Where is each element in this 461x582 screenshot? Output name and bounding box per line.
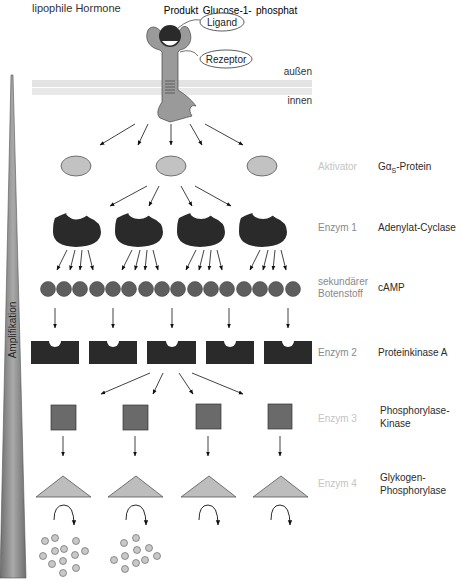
row-name-g-protein: GαS-Protein <box>378 161 431 174</box>
row-name-adenylat-cyclase: Adenylat-Cyclase <box>378 222 456 233</box>
row-name-phosphorylase-kinase-1: Phosphorylase- <box>380 405 449 416</box>
kinase-row <box>51 404 292 430</box>
amplification-label: Amplifikation <box>7 302 18 359</box>
row-name-camp: cAMP <box>378 282 405 293</box>
enzyme1-row: Enzym 1 Adenylat-Cyclase <box>53 205 456 247</box>
row-role-second-messenger-2: Botenstoff <box>318 288 363 299</box>
curved-arrows <box>54 505 290 525</box>
product-row <box>40 535 161 577</box>
row-role-enzyme2: Enzym 2 <box>318 347 357 358</box>
row-role-activator: Aktivator <box>318 161 358 172</box>
pka-row: Enzym 2 Proteinkinase A <box>31 335 448 364</box>
row-name-proteinkinase-a: Proteinkinase A <box>378 347 448 358</box>
row-role-enzyme4: Enzym 4 <box>318 478 357 489</box>
inside-label: innen <box>288 95 312 106</box>
row-name-glykogen-phosphorylase-1: Glykogen- <box>380 472 426 483</box>
receptor-callout: Rezeptor <box>180 50 252 68</box>
ligand-label: Ligand <box>207 17 237 28</box>
camp-row <box>41 282 301 297</box>
arrows-kinase-to-phosphorylase <box>63 436 280 456</box>
arrows-pka-to-kinase <box>101 373 243 394</box>
row-role-enzyme1: Enzym 1 <box>318 222 357 233</box>
receptor <box>147 25 196 122</box>
amplification-wedge: Amplifikation <box>0 75 26 578</box>
row-name-glykogen-phosphorylase-2: Phosphorylase <box>380 485 447 496</box>
outside-label: außen <box>284 66 312 77</box>
arrows-camp-to-pka <box>55 308 288 328</box>
title-label: lipophile Hormone <box>32 2 121 14</box>
row-role-enzyme3: Enzym 3 <box>318 413 357 424</box>
arrows-receptor-to-activator <box>100 124 243 145</box>
signal-cascade-diagram: lipophile Hormone Amplifikation außen in… <box>0 0 461 582</box>
arrows-enzyme1-to-camp <box>57 250 286 270</box>
phosphorylase-row <box>36 476 308 497</box>
row-role-second-messenger-1: sekundärer <box>318 276 369 287</box>
activator-row: Aktivator GαS-Protein <box>61 156 431 176</box>
receptor-label: Rezeptor <box>206 54 247 65</box>
row-name-phosphorylase-kinase-2: Kinase <box>380 418 411 429</box>
arrows-activator-to-enzyme1 <box>110 186 231 206</box>
